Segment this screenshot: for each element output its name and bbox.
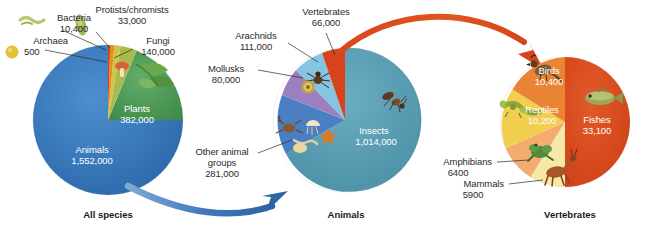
label-archaea-value: 500 bbox=[24, 47, 40, 58]
caption-vertebrates: Vertebrates bbox=[522, 209, 618, 220]
label-protists-value: 33,000 bbox=[82, 16, 182, 27]
label-fungi-value: 140,000 bbox=[128, 47, 188, 58]
icon-bacteria bbox=[20, 18, 44, 25]
leader-arachnids bbox=[288, 43, 318, 62]
label-mammals-value: 5900 bbox=[448, 190, 498, 201]
label-other-value: 281,000 bbox=[186, 169, 258, 180]
label-other-name: Other animal bbox=[186, 147, 258, 158]
label-insects-value: 1,014,000 bbox=[338, 137, 414, 148]
label-birds-value: 10,400 bbox=[518, 77, 580, 88]
leader-mammals bbox=[509, 180, 543, 184]
label-amphibians-name: Amphibians bbox=[420, 157, 492, 168]
label-protists-name: Protists/chromists bbox=[82, 5, 182, 16]
label-fungi-name: Fungi bbox=[130, 36, 186, 47]
caption-all-species: All species bbox=[58, 209, 158, 220]
label-other-name2: groups bbox=[186, 158, 258, 169]
label-reptiles-name: Reptiles bbox=[513, 105, 571, 116]
label-fishes-value: 33,100 bbox=[566, 126, 628, 137]
species-diversity-figure: Archaea 500 Bacteria 10,400 Protists/chr… bbox=[0, 0, 650, 233]
icon-snail bbox=[301, 80, 314, 93]
label-animals-value: 1,552,000 bbox=[50, 156, 134, 167]
label-plants-value: 382,000 bbox=[100, 115, 174, 126]
caption-animals: Animals bbox=[308, 209, 384, 220]
label-insects-name: Insects bbox=[346, 126, 402, 137]
label-reptiles-value: 10,200 bbox=[512, 116, 572, 127]
label-archaea-name: Archaea bbox=[6, 36, 68, 47]
label-mollusks-name: Mollusks bbox=[196, 64, 256, 75]
label-mollusks-value: 80,000 bbox=[196, 75, 256, 86]
icon-archaea bbox=[6, 46, 19, 59]
label-birds-name: Birds bbox=[524, 66, 574, 77]
label-fishes-name: Fishes bbox=[570, 115, 624, 126]
label-archaea: Archaea bbox=[6, 36, 68, 47]
label-amphibians-value: 6400 bbox=[432, 168, 484, 179]
label-plants-name: Plants bbox=[106, 104, 168, 115]
label-vertebrates-name: Vertebrates bbox=[284, 7, 368, 18]
label-mammals-name: Mammals bbox=[436, 179, 504, 190]
label-arachnids-value: 111,000 bbox=[222, 42, 290, 53]
pie-animals bbox=[273, 48, 421, 192]
label-arachnids-name: Arachnids bbox=[222, 31, 290, 42]
label-animals-name: Animals bbox=[56, 145, 128, 156]
label-vertebrates-value: 66,000 bbox=[284, 18, 368, 29]
